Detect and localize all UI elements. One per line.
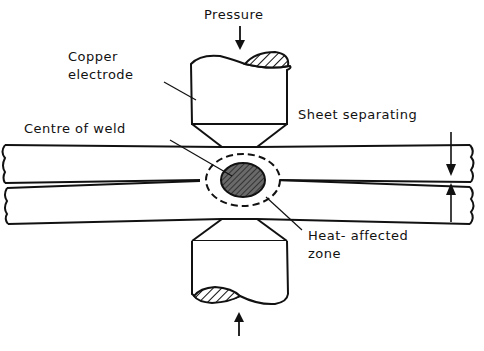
spot-weld-diagram: Pressure Copper electrode Centre of weld…	[0, 0, 484, 351]
bottom-electrode	[192, 219, 288, 304]
centre-of-weld-label: Centre of weld	[24, 122, 126, 136]
heat-affected-zone-label-line1: Heat- affected	[308, 229, 408, 243]
sheet-separating-label: Sheet separating	[298, 108, 417, 122]
heat-affected-zone-label-line2: zone	[308, 247, 341, 261]
pressure-arrow-top	[235, 26, 245, 50]
top-electrode	[191, 52, 291, 147]
weld-nugget	[221, 163, 265, 197]
pressure-arrow-bottom	[234, 312, 244, 336]
copper-electrode-label-line2: electrode	[68, 68, 134, 82]
pressure-label: Pressure	[204, 8, 264, 22]
copper-electrode-label-line1: Copper	[68, 50, 118, 64]
